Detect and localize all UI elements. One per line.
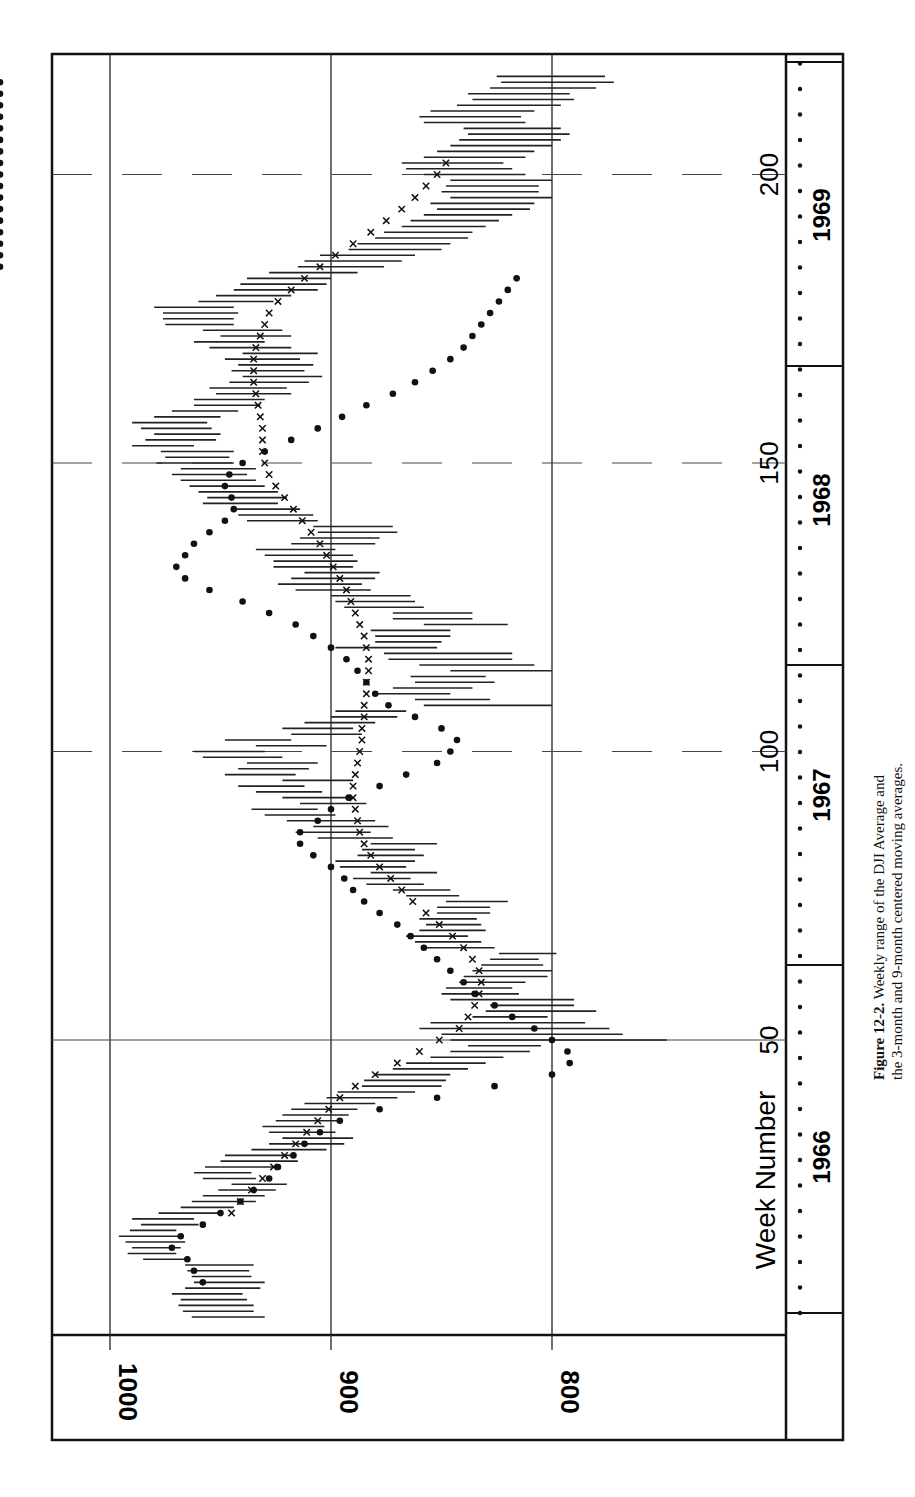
month-dot [798,750,802,754]
three-month-ma-dot [566,1060,573,1067]
three-month-ma-dot [469,333,476,340]
month-dot [798,291,802,295]
week-tick-label: 50 [754,1026,784,1055]
month-dot [798,61,802,65]
nine-month-ma-cross [471,1002,477,1008]
month-dot [798,393,802,397]
three-month-ma-dot [217,1210,224,1217]
caption-line-1: Figure 12-2. Weekly range of the DJI Ave… [870,280,888,1080]
nine-month-ma-cross [352,610,358,616]
nine-month-ma-cross [412,194,418,200]
month-dot [798,852,802,856]
three-month-ma-dot [471,991,478,998]
nine-month-ma-cross [257,414,263,420]
year-label: 1969 [808,188,835,241]
three-month-ma-dot [266,1175,273,1182]
three-month-ma-dot [361,898,368,905]
nine-month-ma-cross [273,483,279,489]
nine-month-ma-cross [352,806,358,812]
week-tick-label: 150 [754,441,784,484]
three-month-ma-dot [429,367,436,374]
three-month-ma-dot [301,1141,308,1148]
value-tick-label: 900 [334,1370,364,1413]
three-month-ma-dot [0,79,3,86]
three-month-ma-dot [328,644,335,651]
three-month-ma-dot [412,379,419,386]
nine-month-ma-cross [354,760,360,766]
three-month-ma-dot [206,587,213,594]
three-month-ma-dot [177,1233,184,1240]
nine-month-ma-cross [361,841,367,847]
nine-month-ma-cross [394,1060,400,1066]
week-tick-label: 100 [754,730,784,773]
three-month-ma-dot [317,1129,324,1136]
month-dot [798,1285,802,1289]
three-month-ma-dot [0,160,3,167]
three-month-ma-dot [496,298,503,305]
three-month-ma-dot [328,864,335,871]
weekly-range-bars [0,59,667,1317]
chart-frame [52,54,843,1440]
outer-frame [52,54,843,1440]
nine-month-ma-cross [365,656,371,662]
month-dot [798,699,802,703]
month-dot [798,138,802,142]
three-month-ma-dot [363,402,370,409]
three-month-ma-dot [0,171,3,178]
month-dot [798,903,802,907]
nine-month-ma-cross [416,1048,422,1054]
nine-month-ma-cross [352,1083,358,1089]
month-dot [798,1030,802,1034]
month-dot [798,1183,802,1187]
month-dot [798,622,802,626]
week-tick-label: 200 [754,153,784,196]
three-month-ma-dot [191,540,198,547]
month-dot [798,316,802,320]
three-month-ma-dot [460,979,467,986]
year-label: 1968 [808,473,835,526]
three-month-ma-dot [290,1152,297,1159]
nine-month-ma-cross [262,321,268,327]
three-month-ma-dot [230,506,237,513]
month-dot [798,1132,802,1136]
three-month-ma-dot [363,679,370,686]
month-dot [798,240,802,244]
three-month-ma-dot [0,217,3,224]
month-dot [798,367,802,371]
three-month-ma-dot [434,956,441,963]
three-month-ma-dot [314,425,321,432]
three-month-ma-dot [239,460,246,467]
month-dot [798,1209,802,1213]
three-month-ma-dot [0,194,3,201]
nine-month-ma-cross [465,1014,471,1020]
three-month-ma-dot [191,1268,198,1275]
three-month-ma-dot [447,748,454,755]
nine-month-ma-cross [365,668,371,674]
three-month-ma-dot [173,564,180,571]
three-month-ma-dot [0,90,3,97]
value-tick-label: 1000 [113,1363,143,1421]
nine-month-ma-cross [357,621,363,627]
month-dot [798,520,802,524]
three-month-ma-dot [0,252,3,259]
month-dot [798,954,802,958]
month-dot [798,571,802,575]
month-dot [798,87,802,91]
nine-month-ma-cross [308,529,314,535]
nine-month-ma-cross [363,691,369,697]
three-month-ma-dot [394,921,401,928]
month-dot [798,724,802,728]
nine-month-ma-cross [266,471,272,477]
nine-month-ma-cross [259,437,265,443]
three-month-ma-dot [0,148,3,155]
three-month-ma-dot [354,667,361,674]
nine-month-ma-cross [399,206,405,212]
month-dot [798,597,802,601]
month-dot [798,418,802,422]
three-month-ma-dot [222,517,229,524]
axis-labels: 50100150200Week Number1000900800 [113,153,784,1421]
nine-month-ma-cross [383,217,389,223]
three-month-ma-dot [0,102,3,109]
three-month-ma-dot [314,817,321,824]
nine-month-ma-cross [259,425,265,431]
